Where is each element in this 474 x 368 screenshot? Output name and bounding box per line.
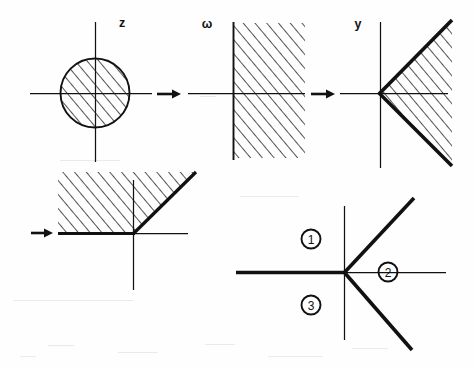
panel-omega-label: ω [202, 17, 213, 31]
sector-label-1: 1 [302, 230, 321, 249]
panel-y-label: y [355, 17, 362, 31]
arrow-into-bottom-left [31, 229, 53, 238]
panel-z-label: z [119, 16, 125, 30]
arrow-omega-to-y [311, 90, 335, 99]
panel-bottom-right-lower-right-ray [344, 272, 412, 350]
sector-1-number: 1 [308, 233, 315, 247]
sector-2-number: 2 [385, 266, 392, 280]
sector-3-number: 3 [308, 299, 315, 313]
panel-bottom-right-upper-right-ray [344, 198, 414, 273]
sector-label-3: 3 [302, 296, 321, 315]
panel-z-disk-hatching [55, 53, 137, 135]
diagram-svg: z ω [0, 0, 474, 368]
panel-y: y [340, 17, 456, 168]
arrow-z-to-omega [157, 90, 181, 99]
figure-canvas: z ω [0, 0, 474, 368]
panel-bottom-left-hatching [54, 168, 200, 238]
panel-bottom-right: 1 2 3 [236, 198, 446, 350]
panel-z: z [30, 16, 152, 162]
panel-omega: ω [188, 17, 310, 162]
panel-omega-halfplane-hatching [230, 20, 310, 162]
panel-bottom-left [54, 168, 200, 290]
